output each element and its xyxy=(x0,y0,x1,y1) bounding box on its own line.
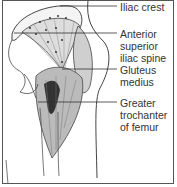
label-greater-trochanter: Greater trochanter of femur xyxy=(120,97,167,133)
anatomy-diagram: Iliac crest Anterior superior iliac spin… xyxy=(0,0,177,187)
label-gluteus-medius: Gluteus medius xyxy=(120,64,156,88)
label-anterior-superior-iliac-spine: Anterior superior iliac spine xyxy=(120,28,166,64)
label-iliac-crest: Iliac crest xyxy=(120,1,164,13)
